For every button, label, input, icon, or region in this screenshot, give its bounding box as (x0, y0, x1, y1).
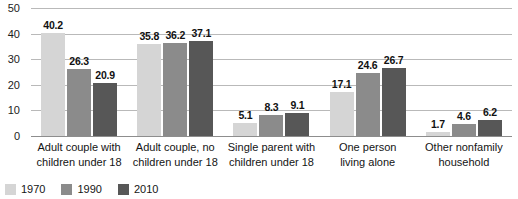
legend-item-1990[interactable]: 1990 (61, 183, 101, 195)
bar-1970 (137, 44, 161, 136)
bar-value-label: 26.3 (69, 55, 89, 67)
bar-value-label: 36.2 (165, 29, 185, 41)
legend-label: 2010 (134, 183, 158, 195)
y-axis-tick-label: 0 (0, 130, 20, 142)
category-label: One personliving alone (320, 140, 416, 170)
bar-1990 (163, 43, 187, 136)
bar-value-label: 17.1 (332, 78, 352, 90)
legend-label: 1970 (21, 183, 45, 195)
bar-value-label: 40.2 (43, 19, 63, 31)
bar-2010 (189, 41, 213, 136)
bar-1990 (356, 73, 380, 136)
bar-2010 (93, 83, 117, 137)
legend-swatch-icon (61, 184, 72, 195)
bar-value-label: 35.8 (139, 30, 159, 42)
category-label-line: children under 18 (223, 155, 319, 170)
bar-chart: 01020304050 40.226.320.935.836.237.15.18… (0, 0, 518, 199)
category-label: Adult couple, nochildren under 18 (127, 140, 223, 170)
bar-value-label: 6.2 (483, 106, 497, 118)
bar-value-label: 4.6 (457, 110, 471, 122)
y-axis-tick-label: 20 (0, 79, 20, 91)
bar-1990 (259, 115, 283, 136)
bar-value-label: 5.1 (238, 109, 252, 121)
bar-group: 1.74.66.2 (416, 8, 512, 136)
category-label: Single parent withchildren under 18 (223, 140, 319, 170)
bar-group: 35.836.237.1 (127, 8, 223, 136)
bar-value-label: 8.3 (264, 101, 278, 113)
axis-baseline (31, 136, 512, 137)
bar-1970 (426, 132, 450, 136)
y-axis-tick-label: 50 (0, 2, 20, 14)
chart-legend: 197019902010 (5, 183, 174, 195)
y-axis-tick-label: 30 (0, 53, 20, 65)
y-axis-tick-label: 10 (0, 104, 20, 116)
bar-2010 (478, 120, 502, 136)
legend-item-1970[interactable]: 1970 (5, 183, 45, 195)
legend-swatch-icon (118, 184, 129, 195)
category-label-line: children under 18 (31, 155, 127, 170)
bar-value-label: 20.9 (95, 69, 115, 81)
bar-value-label: 37.1 (191, 27, 211, 39)
legend-swatch-icon (5, 184, 16, 195)
category-label-line: household (416, 155, 512, 170)
bar-value-label: 26.7 (384, 54, 404, 66)
category-label-line: Other nonfamily (416, 140, 512, 155)
category-label: Adult couple withchildren under 18 (31, 140, 127, 170)
bar-group: 40.226.320.9 (31, 8, 127, 136)
category-label-line: One person (320, 140, 416, 155)
bar-groups: 40.226.320.935.836.237.15.18.39.117.124.… (31, 8, 512, 136)
y-axis-tick-label: 40 (0, 28, 20, 40)
category-label-line: children under 18 (127, 155, 223, 170)
bar-1990 (452, 124, 476, 136)
category-label-line: Adult couple, no (127, 140, 223, 155)
bar-1990 (67, 69, 91, 136)
bar-value-label: 24.6 (358, 59, 378, 71)
bar-1970 (41, 33, 65, 136)
legend-label: 1990 (77, 183, 101, 195)
bar-group: 5.18.39.1 (223, 8, 319, 136)
category-label-line: Single parent with (223, 140, 319, 155)
category-label-line: living alone (320, 155, 416, 170)
bar-2010 (285, 113, 309, 136)
category-axis: Adult couple withchildren under 18Adult … (31, 140, 512, 174)
bar-group: 17.124.626.7 (320, 8, 416, 136)
legend-item-2010[interactable]: 2010 (118, 183, 158, 195)
category-label-line: Adult couple with (31, 140, 127, 155)
category-label: Other nonfamilyhousehold (416, 140, 512, 170)
bar-1970 (233, 123, 257, 136)
bar-1970 (330, 92, 354, 136)
bar-value-label: 9.1 (290, 99, 304, 111)
bar-value-label: 1.7 (431, 118, 445, 130)
bar-2010 (382, 68, 406, 136)
